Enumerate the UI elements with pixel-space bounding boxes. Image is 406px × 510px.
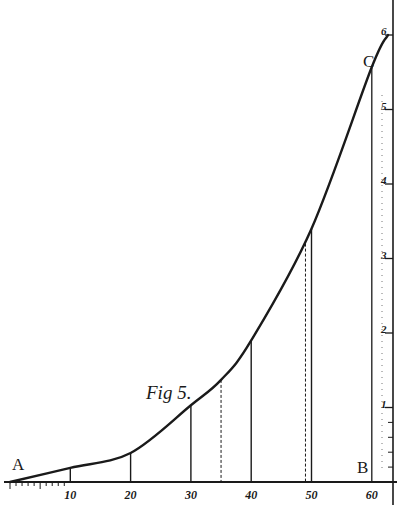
x-tick-label: 60 [366, 488, 378, 503]
y-tick-label: 1 [381, 398, 387, 410]
y-tick-label: 3 [381, 249, 387, 261]
point-label-b: B [357, 458, 368, 478]
point-label-a: A [12, 455, 24, 475]
x-tick-label: 20 [125, 488, 137, 503]
x-tick-label: 50 [306, 488, 318, 503]
point-label-c: C [363, 52, 374, 72]
y-tick-label: 2 [381, 323, 387, 335]
y-tick-label: 5 [381, 100, 387, 112]
curve-plot [0, 0, 406, 510]
x-tick-label: 40 [245, 488, 257, 503]
y-tick-label: 4 [381, 174, 387, 186]
x-tick-label: 30 [185, 488, 197, 503]
x-tick-label: 10 [64, 488, 76, 503]
figure-canvas: ...g p... A B C Fig 5. 102030405060 1234… [0, 0, 406, 510]
curve-ac [10, 35, 388, 482]
y-tick-label: 6 [381, 25, 387, 37]
figure-label: Fig 5. [146, 382, 191, 404]
